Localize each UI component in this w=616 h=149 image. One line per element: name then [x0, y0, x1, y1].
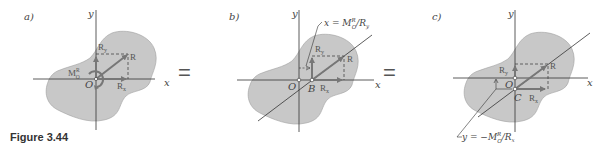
panel-a-label: a) — [24, 11, 34, 22]
r-label: R — [550, 61, 556, 71]
figure-3-44: a) y x O Ry R Rx MRO = b) y x — [0, 0, 616, 149]
panel-b: b) y x O B Ry R Rx x = MRO/Ry — [229, 8, 381, 132]
x-axis-label: x — [587, 77, 593, 88]
y-distance-formula: y = −MRO/Rx — [461, 131, 516, 144]
origin-label: O — [85, 79, 93, 90]
point-c — [513, 87, 517, 91]
equals-sign: = — [178, 60, 191, 85]
x-axis-label: x — [164, 77, 170, 88]
origin-point — [297, 78, 301, 82]
y-axis-label: y — [87, 8, 94, 19]
r-label: R — [130, 52, 136, 62]
r-label: R — [347, 54, 353, 64]
origin-label: O — [288, 81, 296, 92]
panel-a: a) y x O Ry R Rx MRO — [24, 8, 170, 130]
y-axis-label: y — [507, 8, 514, 19]
origin-label: O — [505, 79, 513, 90]
equals-sign: = — [383, 60, 396, 85]
origin-point — [94, 77, 97, 80]
x-axis-label: x — [375, 79, 381, 90]
panel-c-label: c) — [432, 11, 442, 22]
y-axis-label: y — [291, 8, 298, 19]
figure-caption: Figure 3.44 — [10, 131, 68, 143]
origin-point — [513, 76, 517, 80]
panel-c: c) y x O C Ry R Rx y = −MRO/Rx — [432, 8, 593, 144]
point-b — [310, 78, 314, 82]
point-b-label: B — [307, 83, 315, 94]
x-distance-formula: x = MRO/Ry — [324, 17, 370, 30]
point-c-label: C — [514, 92, 522, 103]
panel-b-label: b) — [229, 11, 239, 22]
rigid-body-blob — [464, 32, 574, 122]
